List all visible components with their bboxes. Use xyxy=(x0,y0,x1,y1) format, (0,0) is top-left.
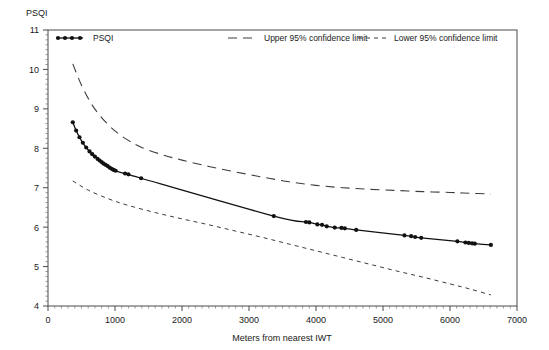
data-point-marker xyxy=(320,223,324,227)
data-point-marker xyxy=(71,120,75,124)
x-tick-label: 0 xyxy=(45,315,50,325)
legend-label: PSQI xyxy=(93,33,113,43)
data-point-marker xyxy=(139,176,143,180)
y-axis-title: PSQI xyxy=(26,8,48,18)
legend-label: Upper 95% confidence limit xyxy=(264,33,368,43)
data-point-marker xyxy=(419,236,423,240)
legend-swatch-marker xyxy=(56,36,60,40)
data-point-marker xyxy=(272,214,276,218)
data-point-marker xyxy=(413,235,417,239)
legend-swatch-marker xyxy=(70,36,74,40)
data-point-marker xyxy=(84,145,88,149)
data-point-marker xyxy=(126,172,130,176)
y-tick-label: 8 xyxy=(34,144,39,154)
chart-figure: 01000200030004000500060007000 4567891011… xyxy=(0,0,549,350)
chart-background xyxy=(0,0,549,350)
data-point-marker xyxy=(77,135,81,139)
data-point-marker xyxy=(315,222,319,226)
data-point-marker xyxy=(333,225,337,229)
y-tick-label: 4 xyxy=(34,301,39,311)
data-point-marker xyxy=(81,141,85,145)
data-point-marker xyxy=(343,226,347,230)
data-point-marker xyxy=(402,233,406,237)
y-tick-label: 9 xyxy=(34,104,39,114)
y-tick-label: 6 xyxy=(34,223,39,233)
x-tick-label: 3000 xyxy=(239,315,259,325)
x-axis-title: Meters from nearest IWT xyxy=(232,333,332,343)
data-point-marker xyxy=(473,242,477,246)
y-tick-label: 10 xyxy=(29,65,39,75)
data-point-marker xyxy=(354,228,358,232)
legend-swatch-marker xyxy=(78,36,82,40)
x-tick-label: 1000 xyxy=(105,315,125,325)
data-point-marker xyxy=(455,239,459,243)
legend-swatch-marker xyxy=(63,36,67,40)
x-tick-label: 2000 xyxy=(172,315,192,325)
data-point-marker xyxy=(489,243,493,247)
x-tick-label: 4000 xyxy=(306,315,326,325)
data-point-marker xyxy=(325,224,329,228)
data-point-marker xyxy=(307,220,311,224)
x-tick-label: 6000 xyxy=(440,315,460,325)
psqi-vs-distance-chart: 01000200030004000500060007000 4567891011… xyxy=(0,0,549,350)
x-tick-label: 7000 xyxy=(507,315,527,325)
data-point-marker xyxy=(74,128,78,132)
y-tick-label: 5 xyxy=(34,262,39,272)
y-tick-label: 7 xyxy=(34,183,39,193)
data-point-marker xyxy=(409,234,413,238)
x-tick-label: 5000 xyxy=(373,315,393,325)
legend-label: Lower 95% confidence limit xyxy=(394,33,498,43)
y-tick-label: 11 xyxy=(30,25,39,35)
data-point-marker xyxy=(114,169,118,173)
